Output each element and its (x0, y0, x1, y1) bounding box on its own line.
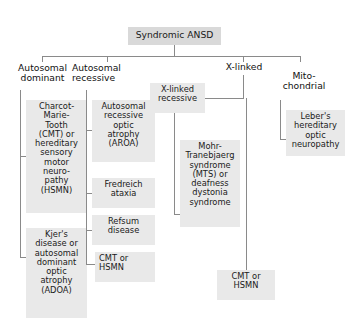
node-x-linked-recessive: X-linked recessive (150, 83, 205, 113)
connector-tick-mitochondrial (300, 56, 301, 62)
connector-root-drop (174, 45, 175, 56)
node-refsum-disease: Refsum disease (92, 215, 155, 245)
syndromic-ansd-flowchart: Syndromic ANSD Autosomal dominant Autoso… (0, 0, 350, 324)
connector-spine-autosomal-recessive (86, 90, 87, 264)
branch-label-x-linked: X-linked (219, 62, 269, 72)
node-kjers-disease-adoa: Kjer's disease or autosomal dominant opt… (26, 228, 87, 318)
node-mohr-tranebjaerg-syndrome: Mohr- Tranebjaerg syndrome (MTS) or deaf… (180, 140, 240, 227)
connector-bus (42, 56, 301, 57)
branch-label-autosomal-recessive: Autosomal recessive (72, 63, 147, 84)
node-charcot-marie-tooth: Charcot- Marie- Tooth (CMT) or hereditar… (26, 100, 87, 213)
connector-spine-x-linked-recessive (174, 113, 175, 215)
node-fredreich-ataxia: Fredreich ataxia (92, 178, 155, 208)
node-cmt-or-hsmn-x-linked: CMT or HSMN (217, 270, 275, 300)
node-autosomal-recessive-optic-atrophy: Autosomal recessive optic atrophy (AROA) (92, 100, 155, 162)
branch-label-autosomal-dominant: Autosomal dominant (5, 63, 80, 84)
branch-label-mitochondrial: Mito- chondrial (276, 71, 332, 92)
connector-x-linked-long-drop (246, 98, 247, 270)
connector-branch-ar-4 (86, 264, 95, 265)
node-lebers-hereditary-optic-neuropathy: Leber's hereditary optic neuropathy (286, 110, 345, 156)
root-node-syndromic-ansd: Syndromic ANSD (128, 27, 221, 45)
connector-spine-mitochondrial (280, 100, 281, 140)
node-cmt-or-hsmn-autosomal-recessive: CMT or HSMN (95, 252, 155, 282)
connector-x-linked-to-recessive (205, 98, 244, 99)
connector-spine-autosomal-dominant (20, 90, 21, 258)
connector-x-linked-drop (243, 75, 244, 99)
